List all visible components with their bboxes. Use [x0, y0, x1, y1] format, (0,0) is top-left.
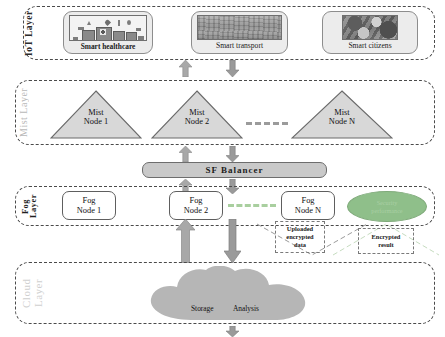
mist-node-2[interactable]: Mist Node 2	[151, 90, 243, 139]
mist-node-line1: Mist	[189, 108, 204, 117]
fog-node-line1: Fog	[189, 196, 202, 205]
arrow-down-fog-cloud	[224, 219, 241, 263]
arrow-up-iot-mist	[179, 60, 192, 77]
iot-card-smart-citizens[interactable]: Smart citizens	[322, 11, 418, 54]
fog-node-1[interactable]: Fog Node 1	[62, 191, 116, 220]
arrow-down-iot-mist	[226, 60, 239, 77]
healthcare-pictogram-icon	[69, 15, 147, 41]
mist-node-line2: Node 1	[84, 117, 108, 126]
mist-node-line1: Mist	[88, 108, 103, 117]
fog-ellipsis	[228, 204, 276, 207]
security-line2: performance	[371, 207, 402, 214]
arrow-down-mist-balancer	[226, 146, 239, 162]
cloud-label-storage: Storage	[191, 304, 214, 313]
architecture-diagram: IoT Layer Smart healthcare	[0, 0, 445, 337]
mist-node-1[interactable]: Mist Node 1	[50, 90, 142, 139]
mist-node-line2: Node N	[329, 117, 355, 126]
mist-node-line1: Mist	[334, 108, 349, 117]
uploaded-data-line1: Uploaded	[287, 225, 313, 232]
fog-node-line2: Node 1	[77, 206, 101, 215]
cloud-shape: Storage Analysis	[135, 266, 325, 322]
arrow-up-mist-balancer	[179, 146, 192, 162]
citizens-photo-icon	[342, 15, 398, 40]
mist-node-label: Mist Node 2	[151, 108, 243, 127]
uploaded-data-line3: data	[294, 241, 306, 248]
security-line1: Security	[377, 199, 398, 206]
iot-card-caption: Smart citizens	[348, 42, 391, 50]
encrypted-result-line1: Encrypted	[372, 233, 401, 240]
mist-ellipsis	[246, 122, 288, 125]
fog-node-line2: Node 2	[184, 206, 208, 215]
cloud-layer-label-text: Cloud Layer	[20, 278, 44, 307]
iot-card-smart-transport[interactable]: Smart transport	[191, 11, 288, 54]
security-performance-ellipse[interactable]: Security performance	[347, 191, 427, 222]
cloud-label-analysis: Analysis	[233, 304, 259, 313]
iot-card-caption: Smart healthcare	[81, 43, 136, 50]
fog-node-n[interactable]: Fog Node N	[281, 191, 335, 220]
mist-node-label: Mist Node 1	[50, 108, 142, 127]
encrypted-result-line2: result	[378, 241, 394, 248]
fog-node-2[interactable]: Fog Node 2	[169, 191, 223, 220]
mist-node-n[interactable]: Mist Node N	[291, 90, 393, 139]
arrow-up-fog-cloud	[176, 219, 195, 263]
arrow-down-cloud-exit	[226, 326, 239, 337]
uploaded-data-line2: encrypted	[286, 233, 313, 240]
sf-balancer[interactable]: SF Balancer	[142, 162, 327, 178]
fog-node-line2: Node N	[295, 206, 321, 215]
fog-node-line1: Fog	[301, 196, 314, 205]
iot-card-caption: Smart transport	[216, 42, 263, 50]
transport-photo-icon	[197, 15, 282, 40]
fog-node-line1: Fog	[82, 196, 95, 205]
cloud-layer-label: Cloud Layer	[20, 266, 50, 320]
mist-layer-label: Mist Layer	[19, 84, 35, 141]
iot-layer-label: IoT Layer	[25, 10, 41, 56]
fog-layer-label-text: Fog Layer	[21, 195, 38, 219]
fog-layer-label: Fog Layer	[22, 190, 40, 223]
mist-node-label: Mist Node N	[291, 108, 393, 127]
uploaded-data-label: Uploaded encrypted data	[275, 221, 325, 253]
iot-card-smart-healthcare[interactable]: Smart healthcare	[63, 11, 153, 54]
mist-node-line2: Node 2	[185, 117, 209, 126]
encrypted-result-label: Encrypted result	[358, 228, 414, 254]
